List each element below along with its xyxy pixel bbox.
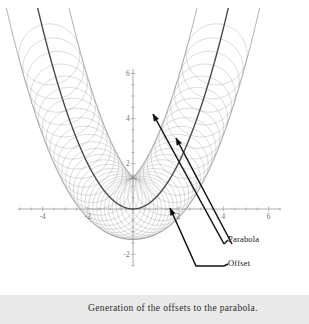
y-tick-label: 4 xyxy=(126,115,130,123)
offset-curves-group xyxy=(0,0,267,240)
figure-caption: Generation of the offsets to the parabol… xyxy=(88,303,258,313)
x-tick-label: 6 xyxy=(267,213,271,221)
y-tick-label: -2 xyxy=(124,251,130,259)
x-tick-label: 4 xyxy=(222,213,226,221)
annotation-arrows-group xyxy=(153,114,232,266)
arrow-parabola-upper xyxy=(153,114,224,244)
plot-area: -4-2246642-2 xyxy=(0,0,309,294)
x-tick-label: -4 xyxy=(40,213,46,221)
arrowhead-icon xyxy=(176,138,182,145)
annotation-label-parabola: Parabola xyxy=(228,234,259,244)
arrowhead-icon xyxy=(153,114,159,121)
arrow-parabola-lower xyxy=(176,138,232,244)
x-tick-label: 2 xyxy=(176,213,180,221)
y-tick-label: 2 xyxy=(126,160,130,168)
annotation-label-offset: Offset xyxy=(228,258,250,268)
y-tick-label: 6 xyxy=(126,70,130,78)
x-tick-label: -2 xyxy=(85,213,91,221)
offset-curve-inner xyxy=(0,0,267,240)
figure-root: -4-2246642-2 Parabola Offset Generation … xyxy=(0,0,309,324)
offset-parabola-plot: -4-2246642-2 xyxy=(0,0,309,294)
